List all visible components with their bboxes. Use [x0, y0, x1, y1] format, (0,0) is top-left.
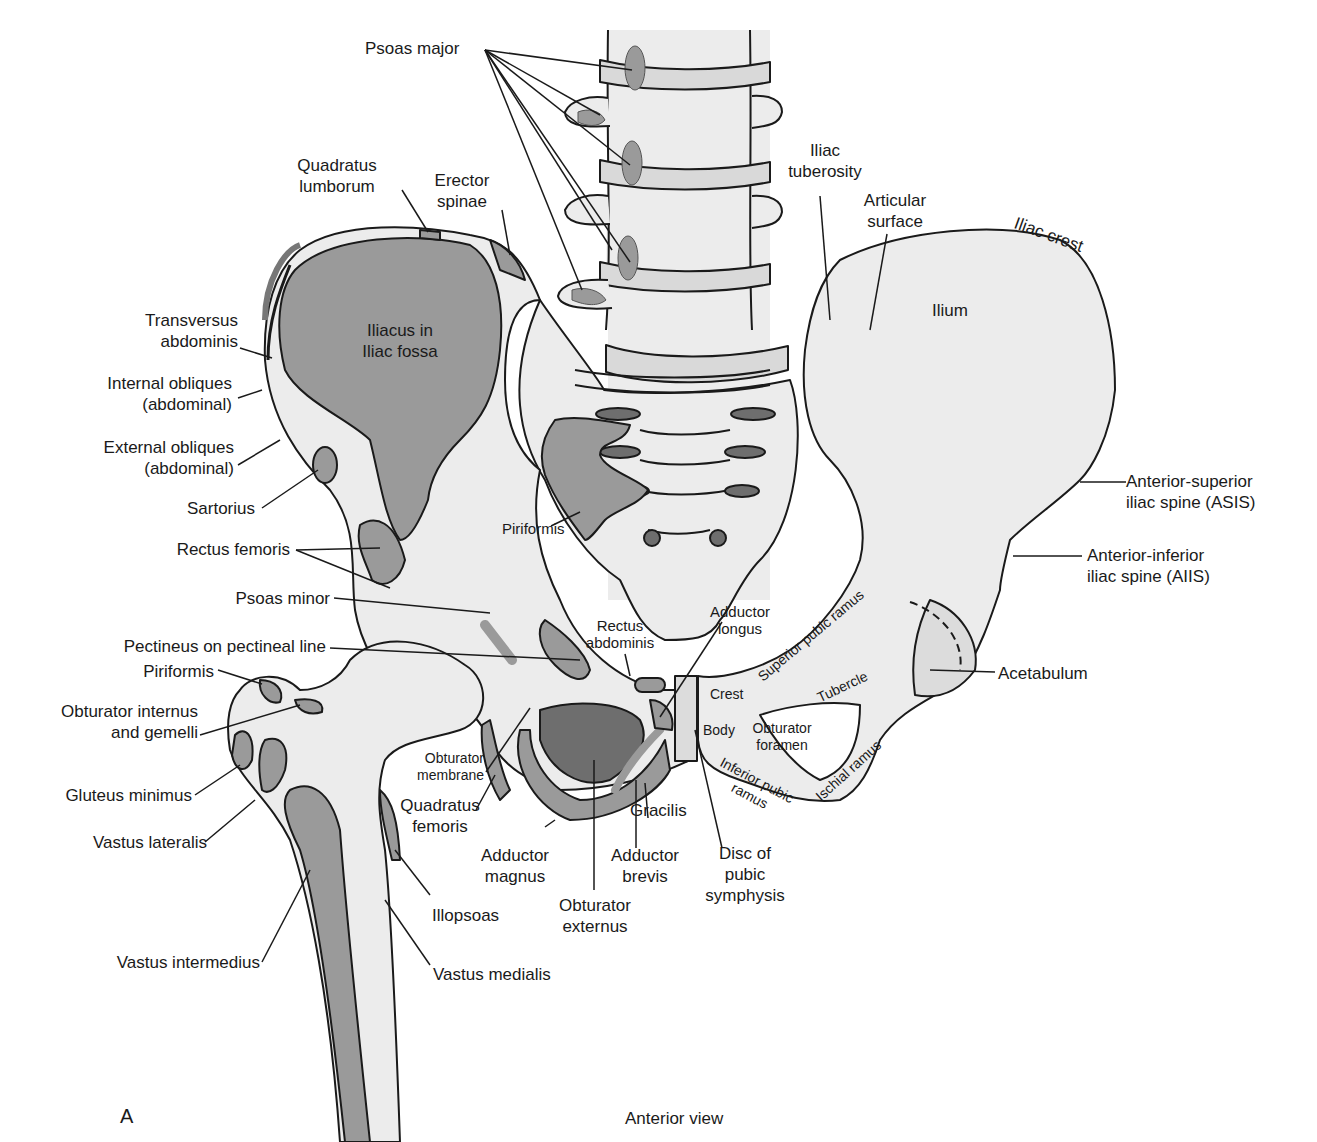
anatomy-figure: Psoas major Quadratus lumborum Erector s…: [0, 0, 1317, 1142]
label-obturator-foramen: Obturator foramen: [742, 720, 822, 754]
label-quadratus-lumborum: Quadratus lumborum: [282, 155, 392, 197]
label-crest: Crest: [710, 686, 743, 703]
label-acetabulum: Acetabulum: [998, 663, 1088, 684]
label-sartorius: Sartorius: [100, 498, 255, 519]
panel-letter: A: [120, 1106, 133, 1127]
label-gluteus-minimus: Gluteus minimus: [20, 785, 192, 806]
label-obturator-externus: Obturator externus: [545, 895, 645, 937]
label-vastus-intermedius: Vastus intermedius: [40, 952, 260, 973]
view-caption: Anterior view: [625, 1108, 723, 1129]
label-body: Body: [703, 722, 735, 739]
label-rectus-abdominis: Rectus abdominis: [575, 617, 665, 651]
label-erector-spinae: Erector spinae: [422, 170, 502, 212]
label-piriformis-femur: Piriformis: [80, 661, 214, 682]
label-vastus-lateralis: Vastus lateralis: [40, 832, 207, 853]
label-articular-surface: Articular surface: [845, 190, 945, 232]
label-disc-pubic-symphysis: Disc of pubic symphysis: [690, 843, 800, 906]
label-adductor-brevis: Adductor brevis: [600, 845, 690, 887]
label-transversus-abdominis: Transversus abdominis: [40, 310, 238, 352]
label-ilium: Ilium: [932, 300, 968, 321]
label-external-obliques: External obliques (abdominal): [40, 437, 234, 479]
label-aiis: Anterior-inferior iliac spine (AIIS): [1087, 545, 1210, 587]
label-adductor-magnus: Adductor magnus: [470, 845, 560, 887]
label-psoas-major: Psoas major: [365, 38, 459, 59]
label-obturator-membrane: Obturator membrane: [390, 750, 484, 784]
label-obturator-internus: Obturator internus and gemelli: [20, 701, 198, 743]
label-psoas-minor: Psoas minor: [150, 588, 330, 609]
label-internal-obliques: Internal obliques (abdominal): [40, 373, 232, 415]
label-asis: Anterior-superior iliac spine (ASIS): [1126, 471, 1255, 513]
label-iliacus: Iliacus in Iliac fossa: [330, 320, 470, 362]
label-quadratus-femoris: Quadratus femoris: [390, 795, 490, 837]
label-iliac-tuberosity: Iliac tuberosity: [770, 140, 880, 182]
label-rectus-femoris: Rectus femoris: [80, 539, 290, 560]
label-pectineus: Pectineus on pectineal line: [40, 636, 326, 657]
label-vastus-medialis: Vastus medialis: [433, 964, 551, 985]
femur: [228, 641, 483, 1142]
label-iliopsoas: Illopsoas: [432, 905, 499, 926]
label-gracilis: Gracilis: [630, 800, 687, 821]
label-adductor-longus: Adductor longus: [695, 603, 785, 637]
label-piriformis-sacrum: Piriformis: [502, 520, 565, 537]
